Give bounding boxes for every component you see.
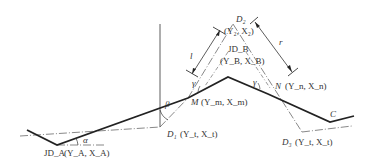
beta-arc xyxy=(160,110,168,120)
n-coords: (Y_n, X_n) xyxy=(285,82,327,91)
gamma-right-arc xyxy=(258,83,260,89)
jda-label: JD_A xyxy=(44,149,65,158)
d3-label: D₃ xyxy=(282,138,292,147)
r-tick-top xyxy=(250,17,258,24)
d1-coords: (Y_t, X_t) xyxy=(180,130,218,139)
m-label: M xyxy=(191,98,199,107)
m-coords: (Y_m, X_m) xyxy=(201,98,248,107)
n-label: N xyxy=(275,82,281,91)
c-label: C xyxy=(330,110,336,119)
baseline-dashdot xyxy=(20,127,160,136)
beta-label: β xyxy=(165,100,169,109)
d1-label: D₁ xyxy=(167,130,177,139)
d2-coords: (Y₂, X₂) xyxy=(224,27,254,36)
l-dimension-label: l xyxy=(190,52,193,61)
d2-to-d3-dashdot xyxy=(233,24,302,132)
jdb-coords: (Y_B, X_B) xyxy=(220,57,265,66)
gamma-left-label: γ xyxy=(192,79,196,88)
diagram-canvas: D₂ (Y₂, X₂) JD_B (Y_B, X_B) γ γ l r M (Y… xyxy=(0,0,370,167)
r-dimension-label: r xyxy=(279,38,283,47)
d2-label: D₂ xyxy=(236,15,246,24)
l-arrow-bottom-icon xyxy=(192,68,196,74)
d3-right-dashdot xyxy=(302,126,352,132)
alpha-arc xyxy=(76,138,78,145)
jda-coords: (Y_A, X_A) xyxy=(64,149,110,158)
l-tick-bottom xyxy=(186,70,198,77)
alpha-label: α xyxy=(83,136,88,145)
d3-coords: (Y_t, X_t) xyxy=(295,138,333,147)
gamma-right-label: γ xyxy=(253,78,257,87)
jdb-label: JD_B xyxy=(228,45,249,54)
